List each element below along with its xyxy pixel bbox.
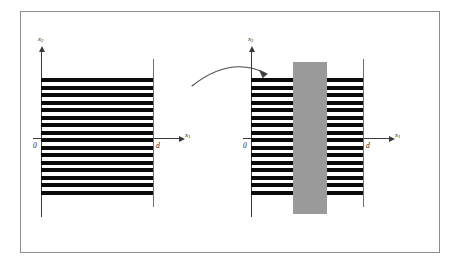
left-horizontal-axis-label: x1 [185,132,191,139]
stripe-band [41,108,153,112]
stripe-band [41,78,153,82]
transformation-arrow-curve [192,67,267,86]
grey-inclusion-slab [293,62,327,214]
panel-right-with-inclusion: x2 x1 0 d [239,12,439,254]
right-vertical-axis-arrowhead [249,46,255,52]
stripe-band [41,93,153,97]
right-origin-label: 0 [243,142,247,150]
left-vertical-axis-label: x2 [38,36,44,43]
left-horizontal-axis-label-sub: 1 [188,134,191,139]
left-vertical-axis-label-sub: 2 [41,38,44,43]
stripe-band [41,138,153,142]
stripe-band [41,191,153,195]
stripe-band [41,146,153,150]
left-origin-label: 0 [33,142,37,150]
left-boundary-d [153,59,154,207]
right-boundary-d [363,59,364,207]
stripe-band [41,131,153,135]
stripe-band [41,176,153,180]
right-vertical-axis-label-sub: 2 [251,38,254,43]
right-vertical-axis-label: x2 [248,36,254,43]
stripe-band [41,101,153,105]
right-horizontal-axis-label: x1 [395,132,401,139]
transformation-arrow-head [260,70,268,78]
right-horizontal-axis-label-sub: 1 [398,134,401,139]
stripe-band [41,168,153,172]
panel-left-undeformed: x2 x1 0 d [29,12,229,254]
stripe-band [41,123,153,127]
stripe-band [41,116,153,120]
left-vertical-axis-arrowhead [39,46,45,52]
transformation-arrow [189,54,281,94]
stripe-band [41,153,153,157]
stripe-band [41,183,153,187]
left-thickness-label: d [156,142,160,150]
stripe-band [41,161,153,165]
right-thickness-label: d [366,142,370,150]
stripe-band [41,86,153,90]
left-stripe-stack [41,78,153,200]
figure-root: x2 x1 0 d x2 [0,0,459,269]
figure-frame: x2 x1 0 d x2 [20,11,440,253]
